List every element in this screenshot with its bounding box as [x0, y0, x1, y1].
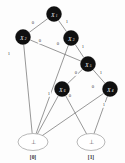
terminal-symbol: ⊥: [89, 139, 94, 145]
terminal-1[interactable]: ⊥[1]: [77, 134, 105, 161]
node-subscript: 2: [25, 37, 27, 41]
node-x4[interactable]: X4: [103, 82, 118, 97]
edge-n2-t0-1: [24, 45, 32, 133]
node-subscript: 1: [56, 14, 58, 18]
terminal-caption: [0]: [30, 154, 36, 160]
node-x1[interactable]: X1: [47, 7, 62, 22]
node-x2[interactable]: X2: [16, 30, 31, 45]
node-x6[interactable]: X6: [55, 82, 70, 97]
edge-n4-t1-1: [94, 96, 107, 133]
node-subscript: 5: [90, 64, 92, 68]
node-subscript: 4: [112, 89, 114, 93]
bdd-diagram: X1X2X3X5X6X4 ⊥[0]⊥[1] 010101011001: [0, 0, 125, 163]
node-x5[interactable]: X5: [81, 57, 96, 72]
node-x3[interactable]: X3: [64, 31, 79, 46]
node-subscript: 6: [64, 89, 66, 93]
terminals-layer: ⊥[0]⊥[1]: [18, 134, 105, 161]
terminal-0[interactable]: ⊥[0]: [18, 134, 48, 161]
node-subscript: 3: [73, 38, 75, 42]
terminal-caption: [1]: [88, 154, 94, 160]
bdd-canvas: X1X2X3X5X6X4 ⊥[0]⊥[1] 010101011001: [0, 0, 125, 163]
edge-n4-t0-0: [40, 93, 103, 137]
terminal-symbol: ⊥: [31, 139, 36, 145]
edge-n6-t1-0: [66, 96, 87, 134]
